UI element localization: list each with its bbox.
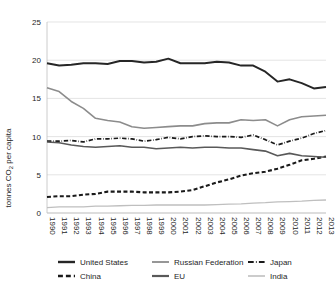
- x-tick-label: 2009: [278, 217, 287, 235]
- y-tick-label: 15: [32, 94, 41, 103]
- y-tick-label: 0: [37, 209, 42, 218]
- co2-per-capita-line-chart: 0510152025 19901991199219931994199519961…: [0, 0, 335, 293]
- legend-label: India: [270, 272, 288, 281]
- legend-label: United States: [80, 258, 128, 267]
- y-tick-label: 5: [37, 171, 42, 180]
- series-line-india: [47, 200, 326, 208]
- x-tick-label: 2002: [194, 217, 203, 235]
- legend-label: Japan: [270, 258, 292, 267]
- y-tick-label: 10: [32, 133, 41, 142]
- x-tick-label: 2011: [303, 217, 312, 235]
- x-tick-label: 2003: [206, 217, 215, 235]
- axis-lines: [47, 22, 326, 213]
- x-tick-label: 2007: [254, 217, 263, 235]
- gridlines: [47, 22, 326, 213]
- x-tick-label: 2010: [291, 217, 300, 235]
- x-tick-label: 1991: [60, 217, 69, 235]
- series-line-russian-federation: [47, 88, 326, 129]
- x-tick-label: 1993: [84, 217, 93, 235]
- x-tick-label: 1995: [109, 217, 118, 235]
- legend-item[interactable]: Japan: [248, 258, 292, 267]
- y-axis-title: tonnes CO2 per capita: [4, 128, 14, 208]
- x-tick-label: 2004: [218, 217, 227, 235]
- series-line-eu: [47, 142, 326, 157]
- legend-item[interactable]: United States: [58, 258, 128, 267]
- legend-item[interactable]: India: [248, 272, 288, 281]
- chart-legend: United StatesRussian FederationJapanChin…: [58, 258, 292, 281]
- x-tick-label: 1992: [72, 217, 81, 235]
- x-tick-label: 1996: [121, 217, 130, 235]
- series-line-china: [47, 156, 326, 197]
- legend-item[interactable]: Russian Federation: [152, 258, 243, 267]
- x-tick-label: 2001: [181, 217, 190, 235]
- x-tick-label: 2012: [315, 217, 324, 235]
- x-tick-label: 1998: [145, 217, 154, 235]
- x-tick-label: 2008: [266, 217, 275, 235]
- legend-label: China: [80, 272, 101, 281]
- y-axis-tick-labels: 0510152025: [32, 18, 41, 218]
- y-tick-label: 20: [32, 56, 41, 65]
- x-tick-label: 1994: [97, 217, 106, 235]
- legend-item[interactable]: EU: [152, 272, 185, 281]
- x-axis-tick-labels: 1990199119921993199419951996199719981999…: [48, 217, 335, 235]
- y-axis-title-text: tonnes CO2 per capita: [4, 128, 14, 208]
- chart-canvas: 0510152025 19901991199219931994199519961…: [0, 0, 335, 293]
- x-tick-label: 2000: [169, 217, 178, 235]
- x-tick-label: 2013: [327, 217, 335, 235]
- x-tick-label: 2005: [230, 217, 239, 235]
- legend-item[interactable]: China: [58, 272, 101, 281]
- x-tick-label: 2006: [242, 217, 251, 235]
- data-series: [47, 59, 326, 208]
- series-line-united-states: [47, 59, 326, 89]
- series-line-japan: [47, 130, 326, 145]
- legend-label: EU: [174, 272, 185, 281]
- x-tick-label: 1990: [48, 217, 57, 235]
- y-tick-label: 25: [32, 18, 41, 27]
- x-tick-label: 1997: [133, 217, 142, 235]
- legend-label: Russian Federation: [174, 258, 243, 267]
- x-tick-label: 1999: [157, 217, 166, 235]
